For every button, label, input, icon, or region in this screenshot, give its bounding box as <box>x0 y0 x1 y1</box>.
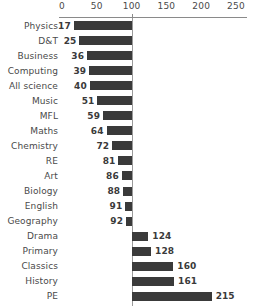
category-label: All science <box>0 81 58 91</box>
bar <box>97 96 131 105</box>
bar <box>132 262 174 271</box>
value-label: 86 <box>106 171 119 181</box>
bar <box>79 36 131 45</box>
value-label: 72 <box>96 141 109 151</box>
bar <box>74 21 132 30</box>
category-label: Geography <box>0 216 58 226</box>
value-label: 215 <box>216 291 235 301</box>
bar <box>132 247 151 256</box>
category-label: Primary <box>0 246 58 256</box>
value-label: 81 <box>103 156 116 166</box>
value-label: 40 <box>74 81 87 91</box>
chart-row: Primary128 <box>0 244 260 259</box>
x-axis: 050100150200250 <box>0 0 260 18</box>
chart-row: Physics17 <box>0 18 260 33</box>
chart-row: Art86 <box>0 168 260 183</box>
category-label: Computing <box>0 66 58 76</box>
category-label: RE <box>0 156 58 166</box>
chart-row: Music51 <box>0 93 260 108</box>
bar <box>118 156 131 165</box>
bar-chart: 050100150200250 Physics17D&T25Business36… <box>0 0 260 306</box>
bar <box>87 51 132 60</box>
category-label: Biology <box>0 186 58 196</box>
bar <box>107 126 132 135</box>
value-label: 88 <box>108 186 121 196</box>
category-label: Physics <box>0 21 58 31</box>
chart-row: Classics160 <box>0 259 260 274</box>
value-label: 92 <box>110 216 123 226</box>
bar <box>132 292 212 301</box>
chart-row: D&T25 <box>0 33 260 48</box>
category-label: D&T <box>0 36 58 46</box>
category-label: Music <box>0 96 58 106</box>
value-label: 39 <box>73 66 86 76</box>
value-label: 59 <box>87 111 100 121</box>
x-tick-label: 100 <box>123 1 141 11</box>
x-tick-label: 50 <box>91 1 103 11</box>
category-label: Maths <box>0 126 58 136</box>
value-label: 161 <box>178 276 197 286</box>
chart-row: Maths64 <box>0 123 260 138</box>
value-label: 160 <box>177 261 196 271</box>
category-label: English <box>0 201 58 211</box>
chart-row: Biology88 <box>0 184 260 199</box>
value-label: 25 <box>64 36 77 46</box>
bar <box>125 202 131 211</box>
value-label: 17 <box>58 21 71 31</box>
category-label: Art <box>0 171 58 181</box>
value-label: 36 <box>71 51 84 61</box>
category-label: PE <box>0 291 58 301</box>
bar <box>90 81 132 90</box>
x-tick-label: 250 <box>227 1 245 11</box>
bar <box>122 171 132 180</box>
bar <box>126 217 132 226</box>
category-label: Business <box>0 51 58 61</box>
chart-row: MFL59 <box>0 108 260 123</box>
chart-row: History161 <box>0 274 260 289</box>
value-label: 91 <box>110 201 123 211</box>
chart-row: Drama124 <box>0 229 260 244</box>
category-label: MFL <box>0 111 58 121</box>
x-tick-label: 0 <box>59 1 65 11</box>
bar <box>89 66 131 75</box>
chart-row: Business36 <box>0 48 260 63</box>
value-label: 64 <box>91 126 104 136</box>
value-label: 51 <box>82 96 95 106</box>
category-label: Classics <box>0 261 58 271</box>
chart-row: Geography92 <box>0 214 260 229</box>
bar <box>103 111 132 120</box>
chart-row: RE81 <box>0 153 260 168</box>
chart-row: Computing39 <box>0 63 260 78</box>
bar <box>123 187 131 196</box>
x-tick-label: 200 <box>192 1 210 11</box>
category-label: History <box>0 276 58 286</box>
bar <box>132 277 174 286</box>
x-tick-label: 150 <box>158 1 176 11</box>
chart-row: PE215 <box>0 289 260 304</box>
chart-rows: Physics17D&T25Business36Computing39All s… <box>0 18 260 304</box>
chart-row: All science40 <box>0 78 260 93</box>
chart-row: Chemistry72 <box>0 138 260 153</box>
value-label: 128 <box>155 246 174 256</box>
bar <box>132 232 149 241</box>
category-label: Drama <box>0 231 58 241</box>
bar <box>112 141 131 150</box>
value-label: 124 <box>152 231 171 241</box>
category-label: Chemistry <box>0 141 58 151</box>
chart-row: English91 <box>0 199 260 214</box>
